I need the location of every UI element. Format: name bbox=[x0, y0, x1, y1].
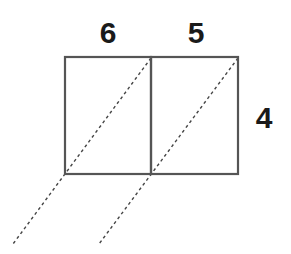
top-digit-2: 5 bbox=[188, 16, 205, 49]
top-digit-1: 6 bbox=[100, 16, 117, 49]
right-digit-1: 4 bbox=[256, 101, 273, 134]
diagonal-right bbox=[99, 58, 238, 244]
lattice-diagram: 6 5 4 bbox=[0, 0, 291, 254]
diagonal-left bbox=[13, 58, 151, 244]
